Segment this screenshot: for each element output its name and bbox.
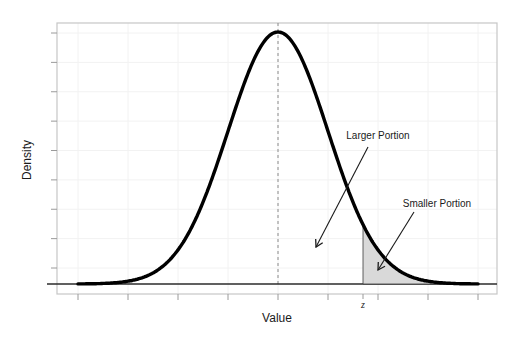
smaller-portion-label: Smaller Portion: [403, 198, 471, 209]
plot-frame: [57, 23, 497, 294]
y-axis-ticks: [51, 33, 57, 268]
gridlines: [57, 23, 497, 294]
density-plot: Larger Portion Smaller Portion z Value D…: [0, 0, 525, 346]
x-axis-ticks: [78, 294, 478, 300]
larger-portion-label: Larger Portion: [346, 130, 409, 141]
normal-distribution-figure: Larger Portion Smaller Portion z Value D…: [0, 0, 525, 346]
larger-portion-arrow: [316, 147, 368, 247]
z-tick-label: z: [360, 299, 365, 310]
x-axis-label: Value: [262, 311, 292, 325]
y-axis-label: Density: [20, 140, 34, 180]
smaller-portion-arrow: [378, 212, 414, 270]
